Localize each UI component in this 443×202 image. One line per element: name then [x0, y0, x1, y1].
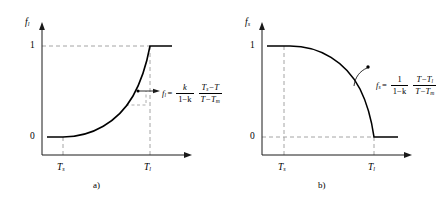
y-axis-label: fs	[245, 18, 250, 28]
x-tick-ts: Ts	[57, 163, 65, 173]
equation-panel-a: fl = k 1−k Ts−T T−Tm	[162, 82, 224, 104]
leader-dot	[366, 65, 369, 68]
equation-equals: =	[167, 88, 172, 98]
y-axis-arrowhead	[39, 22, 45, 30]
fraction-2-numerator: T−Tl	[414, 74, 435, 84]
chart-panel-b: fs 1 0 Ts Tl fs = 1 1−k T−Tl	[222, 0, 443, 202]
equation-fraction-1: 1 1−k	[391, 74, 408, 96]
equation-equals: =	[382, 80, 387, 90]
x-tick-ts: Ts	[278, 163, 286, 173]
y-tick-1: 1	[30, 41, 35, 51]
x-axis-arrowhead	[184, 152, 192, 158]
chart-panel-a: fl 1 0 Ts Tl fl = k 1−k Ts−T	[0, 0, 221, 202]
panel-b-caption: b)	[318, 181, 326, 190]
x-tick-tl: Tl	[144, 163, 151, 173]
y-axis-arrowhead	[259, 22, 265, 30]
y-tick-0: 0	[250, 132, 255, 142]
fraction-1-numerator: k	[181, 82, 189, 92]
figure-root: fl 1 0 Ts Tl fl = k 1−k Ts−T	[0, 0, 443, 202]
leader-arrowhead	[153, 89, 160, 93]
fraction-2-denominator: T−Tm	[199, 94, 222, 104]
y-axis-label: fl	[25, 18, 29, 28]
fraction-2-numerator: Ts−T	[199, 82, 220, 92]
equation-lhs: fl	[162, 88, 166, 98]
leader-dot	[137, 90, 140, 93]
fraction-1-denominator: 1−k	[391, 86, 408, 96]
equation-lhs: fs	[376, 80, 381, 90]
panel-a-caption: a)	[93, 181, 100, 190]
panel-b-plot	[222, 0, 443, 202]
equation-fraction-2: T−Tl T−Tm	[413, 74, 436, 96]
fraction-1-denominator: 1−k	[176, 94, 193, 104]
y-tick-1: 1	[250, 41, 255, 51]
y-tick-0: 0	[30, 132, 35, 142]
x-tick-tl: Tl	[368, 163, 375, 173]
equation-fraction-2: Ts−T T−Tm	[199, 82, 222, 104]
fraction-2-denominator: T−Tm	[413, 86, 436, 96]
x-axis-arrowhead	[404, 152, 412, 158]
fraction-1-numerator: 1	[395, 74, 403, 84]
equation-fraction-1: k 1−k	[176, 82, 193, 104]
equation-panel-b: fs = 1 1−k T−Tl T−Tm	[376, 74, 439, 96]
